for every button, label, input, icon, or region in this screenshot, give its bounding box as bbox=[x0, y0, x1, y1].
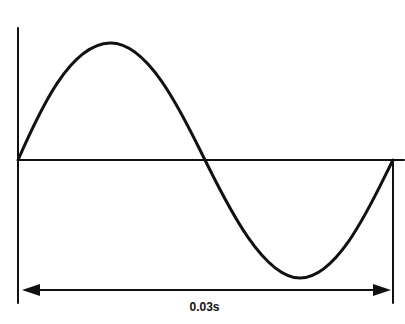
sine-wave-diagram bbox=[0, 0, 405, 324]
arrowhead-left-icon bbox=[22, 284, 40, 296]
period-label: 0.03s bbox=[0, 300, 405, 314]
arrowhead-right-icon bbox=[373, 284, 391, 296]
